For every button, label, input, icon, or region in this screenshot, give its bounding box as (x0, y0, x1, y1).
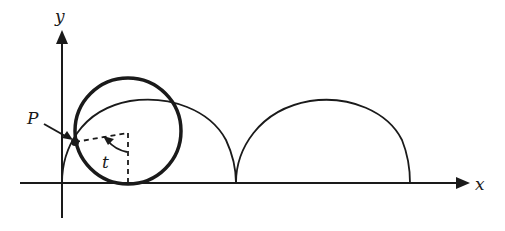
y-axis-label: y (54, 6, 65, 26)
angle-t-arc (108, 141, 127, 152)
cycloid-figure: y x P t (0, 0, 505, 231)
point-p-label: P (26, 108, 39, 128)
point-p-pointer (44, 124, 67, 137)
y-axis-arrow-icon (56, 30, 68, 44)
diagram-canvas: y x P t (0, 0, 505, 231)
rolling-circle (75, 78, 181, 184)
angle-t-arrow-icon (103, 136, 114, 145)
dashed-radius-line (75, 133, 128, 142)
x-axis-arrow-icon (456, 177, 470, 189)
cycloid-arch-2 (236, 100, 410, 183)
angle-t-label: t (102, 152, 109, 172)
x-axis-label: x (475, 174, 485, 194)
cycloid-arch-1 (62, 100, 236, 183)
